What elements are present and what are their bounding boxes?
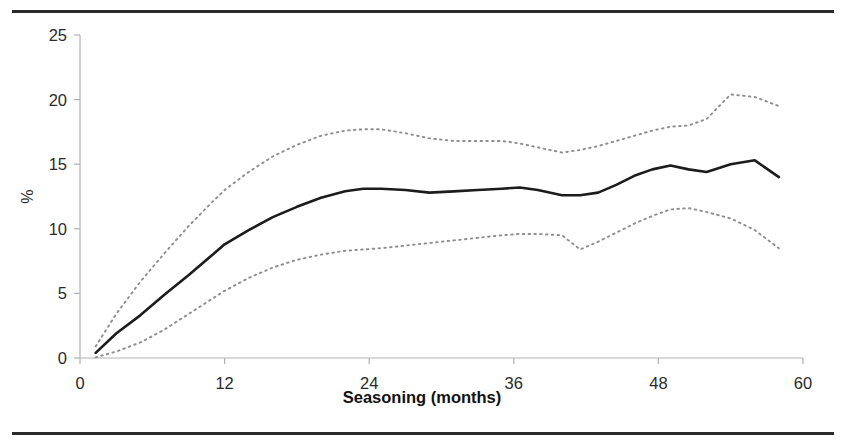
y-tick-label: 20: [49, 91, 67, 109]
data-series-layer: [96, 94, 779, 357]
chart-canvas: 0510152025 01224364860 % Seasoning (mont…: [0, 18, 846, 430]
y-tick-label: 5: [58, 284, 67, 302]
series-line: [96, 94, 779, 346]
y-tick-label: 0: [58, 349, 67, 367]
bottom-divider-rule: [12, 432, 834, 435]
y-tick-label: 15: [49, 155, 67, 173]
y-tick-label: 10: [49, 220, 67, 238]
x-tick-label: 0: [75, 374, 84, 392]
series-line: [96, 208, 779, 357]
x-axis-title: Seasoning (months): [343, 388, 502, 406]
x-tick-label: 60: [794, 374, 812, 392]
x-tick-label: 36: [505, 374, 523, 392]
axis-lines: [74, 35, 803, 364]
y-axis-title: %: [19, 189, 36, 203]
top-divider-rule: [12, 10, 834, 13]
series-line: [96, 160, 779, 353]
y-axis-tick-labels: 0510152025: [49, 26, 67, 367]
x-tick-label: 48: [649, 374, 667, 392]
y-tick-label: 25: [49, 26, 67, 44]
figure-container: 0510152025 01224364860 % Seasoning (mont…: [0, 0, 846, 448]
x-tick-label: 12: [215, 374, 233, 392]
